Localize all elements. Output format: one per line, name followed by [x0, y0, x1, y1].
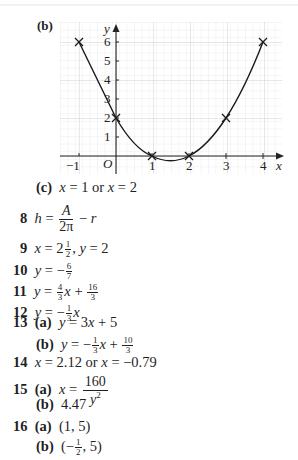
- answer-16b: (b) (−12, 5): [36, 438, 102, 457]
- answer-15b: (b) 4.47: [36, 397, 86, 412]
- answer-8: 8 h = A2π − r: [20, 204, 96, 234]
- quadratic-graph: (b) y x O −11 234 123 456: [0, 0, 298, 180]
- svg-text:−1: −1: [66, 158, 80, 173]
- answer-16a: 16 (a) (1, 5): [13, 419, 90, 434]
- svg-text:2: 2: [186, 158, 193, 173]
- answer-9: 9 x = 212, y = 2: [20, 240, 109, 259]
- svg-text:3: 3: [104, 91, 111, 106]
- answer-14: 14 x = 2.12 or x = −0.79: [13, 355, 157, 370]
- answer-13a: 13 (a) y = 3x + 5: [13, 315, 117, 330]
- svg-text:1: 1: [149, 158, 156, 173]
- grid-major: [60, 22, 282, 174]
- svg-text:1: 1: [104, 129, 111, 144]
- svg-text:4: 4: [104, 72, 111, 87]
- svg-text:4: 4: [260, 158, 267, 173]
- origin-label: O: [103, 156, 113, 171]
- svg-text:3: 3: [223, 158, 230, 173]
- answer-13b: (b) y = −13x + 103: [36, 336, 134, 355]
- answer-c: (c) x = 1 or x = 2: [36, 180, 137, 195]
- answer-11: 11 y = 43x + 163: [13, 283, 99, 302]
- svg-text:6: 6: [104, 34, 111, 49]
- svg-text:2: 2: [104, 110, 111, 125]
- x-axis-label: x: [275, 158, 282, 173]
- answer-10: 10 y = −67: [13, 262, 73, 281]
- part-b-label: (b): [37, 18, 53, 33]
- svg-text:5: 5: [104, 53, 111, 68]
